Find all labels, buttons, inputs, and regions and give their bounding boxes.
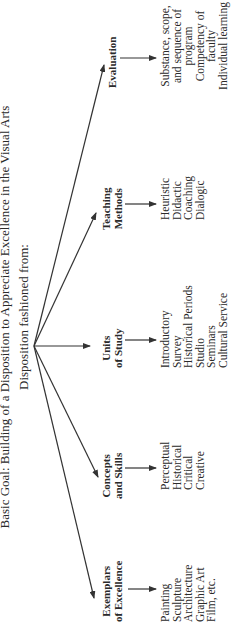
list-item: Introductory bbox=[160, 285, 172, 368]
list-item: program bbox=[183, 0, 195, 94]
list-item: Film, etc. bbox=[206, 565, 218, 622]
branch-label-evaluation: Evaluation bbox=[106, 37, 118, 88]
arrow-hub-to-exemplars bbox=[34, 346, 94, 598]
list-item: Coaching bbox=[183, 176, 195, 220]
list-item: Dialogic bbox=[195, 176, 207, 220]
list-item: Critical bbox=[183, 441, 195, 490]
list-item: faculty bbox=[206, 0, 218, 94]
list-item: Individual learning bbox=[218, 0, 230, 94]
list-item: Creative bbox=[195, 441, 207, 490]
branch-label-teaching-methods: Teaching Methods bbox=[100, 188, 124, 230]
arrow-hub-to-teaching bbox=[34, 213, 96, 346]
arrow-hub-to-concepts bbox=[34, 346, 98, 477]
list-item: Heuristic bbox=[160, 176, 172, 220]
item-list-units-of-study: Introductory Survey Historical Periods S… bbox=[160, 285, 229, 368]
item-list-evaluation: Substance, scope, and sequence of progra… bbox=[160, 0, 229, 94]
list-item: Seminars bbox=[206, 285, 218, 368]
branch-label-exemplars: Exemplars of Excellence bbox=[100, 561, 124, 622]
list-item: Architecture bbox=[183, 565, 195, 622]
item-list-teaching-methods: Heuristic Didactic Coaching Dialogic bbox=[160, 176, 206, 220]
list-item: Perceptual bbox=[160, 441, 172, 490]
item-list-concepts-skills: Perceptual Historical Critical Creative bbox=[160, 441, 206, 490]
list-item: Historical Periods bbox=[183, 285, 195, 368]
list-item: Cultural Service bbox=[218, 285, 230, 368]
item-list-exemplars: Painting Sculpture Architecture Graphic … bbox=[160, 565, 218, 622]
list-item: Substance, scope, bbox=[160, 0, 172, 94]
diagram-canvas: Basic Goal: Building of a Disposition to… bbox=[0, 0, 239, 634]
list-item: Painting bbox=[160, 565, 172, 622]
branch-label-units-of-study: Units of Study bbox=[100, 329, 124, 368]
branch-label-concepts-skills: Concepts and Skills bbox=[100, 453, 124, 499]
arrow-hub-to-evaluation bbox=[34, 65, 104, 346]
